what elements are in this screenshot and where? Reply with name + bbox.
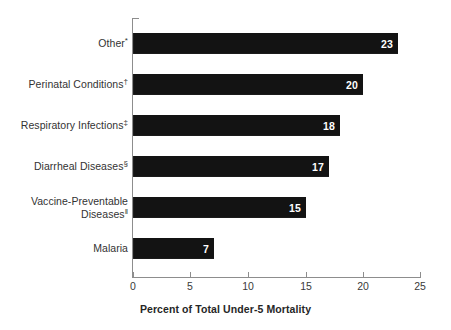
x-tick-label-25: 25 bbox=[400, 280, 440, 292]
x-tick-label-20: 20 bbox=[343, 280, 383, 292]
x-axis-line bbox=[132, 277, 421, 278]
bar-diarrheal-diseases: 17 bbox=[133, 156, 329, 177]
bar-value-label: 18 bbox=[323, 120, 335, 132]
x-tick-10 bbox=[248, 272, 249, 277]
y-axis-line bbox=[132, 18, 133, 277]
bar-chart: Other* Perinatal Conditions† Respiratory… bbox=[0, 0, 451, 330]
footnote-marker: ‡ bbox=[124, 118, 129, 127]
bar-value-label: 17 bbox=[312, 161, 324, 173]
category-label-perinatal-conditions: Perinatal Conditions† bbox=[0, 78, 128, 91]
bar-malaria: 7 bbox=[133, 238, 214, 259]
category-label-respiratory-infections: Respiratory Infections‡ bbox=[0, 119, 128, 132]
category-label-text: Perinatal Conditions bbox=[29, 78, 124, 90]
bar-perinatal-conditions: 20 bbox=[133, 74, 363, 95]
bar-value-label: 7 bbox=[203, 243, 209, 255]
bar-respiratory-infections: 18 bbox=[133, 115, 340, 136]
x-tick-25 bbox=[420, 272, 421, 277]
x-tick-label-0: 0 bbox=[113, 280, 153, 292]
y-axis-top-cap bbox=[132, 18, 139, 19]
category-label-malaria: Malaria bbox=[0, 242, 128, 255]
plot-area: 23 20 18 17 15 7 bbox=[133, 18, 421, 277]
category-label-vaccine-preventable-diseases: Vaccine-PreventableDiseases‖ bbox=[0, 195, 128, 220]
footnote-marker: † bbox=[124, 77, 129, 86]
category-label-text: Respiratory Infections bbox=[21, 119, 124, 131]
bar-vaccine-preventable-diseases: 15 bbox=[133, 197, 306, 218]
x-axis-title: Percent of Total Under-5 Mortality bbox=[0, 303, 451, 315]
x-tick-label-15: 15 bbox=[286, 280, 326, 292]
x-tick-label-10: 10 bbox=[228, 280, 268, 292]
category-label-diarrheal-diseases: Diarrheal Diseases§ bbox=[0, 160, 128, 173]
category-label-line-2: Diseases bbox=[81, 208, 125, 220]
footnote-marker: ‖ bbox=[125, 206, 128, 215]
category-label-other: Other* bbox=[0, 37, 128, 50]
bar-value-label: 15 bbox=[289, 202, 301, 214]
category-label-line-1: Vaccine-Preventable bbox=[31, 195, 128, 207]
category-label-text: Other bbox=[98, 37, 125, 49]
bar-other: 23 bbox=[133, 33, 398, 54]
category-label-text: Malaria bbox=[93, 242, 128, 254]
x-tick-5 bbox=[190, 272, 191, 277]
x-tick-label-5: 5 bbox=[170, 280, 210, 292]
x-tick-20 bbox=[363, 272, 364, 277]
x-tick-15 bbox=[306, 272, 307, 277]
category-label-text: Diarrheal Diseases bbox=[34, 160, 124, 172]
footnote-marker: * bbox=[125, 36, 128, 45]
bar-value-label: 23 bbox=[381, 38, 393, 50]
footnote-marker: § bbox=[124, 159, 129, 168]
x-tick-0 bbox=[133, 272, 134, 277]
bar-value-label: 20 bbox=[346, 79, 358, 91]
